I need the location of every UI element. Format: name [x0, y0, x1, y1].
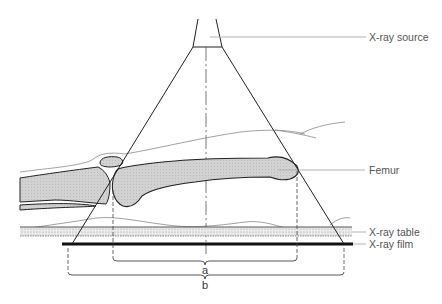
label-xray-source: X-ray source [369, 31, 429, 43]
xray-table [20, 227, 366, 236]
xray-source [193, 19, 366, 47]
label-a: a [202, 264, 208, 276]
label-b: b [202, 279, 208, 291]
patella [100, 157, 123, 167]
label-xray-table: X-ray table [369, 226, 420, 238]
xray-geometry-diagram [0, 0, 442, 304]
femur [112, 157, 298, 207]
fibula [20, 204, 96, 210]
label-femur: Femur [369, 164, 399, 176]
label-xray-film: X-ray film [369, 238, 413, 250]
tibia [20, 167, 110, 204]
